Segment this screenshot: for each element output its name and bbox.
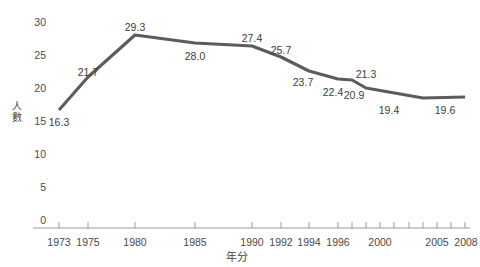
- x-axis-ticks: [59, 222, 465, 228]
- point-label-1994: 23.7: [290, 76, 316, 88]
- point-label-2000-upper: 21.3: [353, 68, 379, 80]
- point-label-1990: 27.4: [239, 32, 265, 44]
- data-series-line: [59, 35, 465, 110]
- point-label-2008: 19.6: [432, 104, 458, 116]
- point-label-1975: 21.7: [75, 66, 101, 78]
- point-label-1992: 25.7: [268, 44, 294, 56]
- point-label-1980: 29.3: [122, 21, 148, 33]
- point-label-2000: 20.9: [341, 89, 367, 101]
- point-label-2005: 19.4: [376, 104, 402, 116]
- point-label-1985: 28.0: [182, 50, 208, 62]
- point-label-1973: 16.3: [46, 116, 72, 128]
